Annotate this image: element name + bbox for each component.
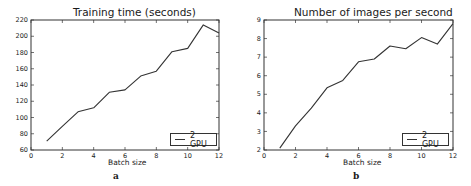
x-tick-label: 2 (60, 152, 64, 160)
chart-title-a: Training time (seconds) (73, 6, 196, 18)
y-tick-label: 100 (16, 114, 28, 122)
series-line-2gpu (47, 25, 219, 141)
y-tick-label: 7 (257, 53, 261, 61)
legend-line-swatch (175, 139, 185, 140)
chart-panel-a: 0246810126080100120140160180200220 Train… (0, 0, 235, 186)
legend-a: 2 GPU (170, 133, 217, 146)
y-tick-label: 2 (257, 146, 261, 154)
x-tick-label: 12 (449, 152, 457, 160)
x-axis-label-b: Batch size (343, 158, 382, 167)
chart-title-b: Number of images per second (294, 6, 453, 18)
y-tick-label: 180 (16, 49, 28, 57)
y-tick-label: 120 (16, 97, 28, 105)
y-tick-label: 6 (257, 72, 261, 80)
y-tick-label: 8 (257, 35, 261, 43)
y-tick-label: 80 (20, 130, 28, 138)
y-tick-label: 160 (16, 65, 28, 73)
y-tick-label: 5 (257, 90, 261, 98)
x-tick-label: 10 (184, 152, 192, 160)
x-axis-label-a: Batch size (108, 158, 147, 167)
y-tick-label: 4 (257, 109, 261, 117)
y-tick-label: 200 (16, 32, 28, 40)
y-tick-label: 60 (20, 146, 28, 154)
x-tick-label: 2 (293, 152, 297, 160)
x-tick-label: 8 (388, 152, 392, 160)
series-line-2gpu (280, 24, 453, 148)
figure-caption-b: b (353, 171, 359, 181)
y-tick-label: 140 (16, 81, 28, 89)
x-tick-label: 10 (417, 152, 425, 160)
x-tick-label: 0 (29, 152, 33, 160)
y-tick-label: 3 (257, 128, 261, 136)
legend-b: 2 GPU (402, 133, 449, 146)
x-tick-label: 0 (262, 152, 266, 160)
x-tick-label: 12 (215, 152, 223, 160)
y-tick-label: 9 (257, 16, 261, 24)
legend-label: 2 GPU (422, 131, 444, 149)
x-tick-label: 4 (325, 152, 329, 160)
x-tick-label: 4 (92, 152, 96, 160)
legend-label: 2 GPU (190, 131, 212, 149)
figure-caption-a: a (113, 171, 119, 181)
legend-line-swatch (407, 139, 417, 140)
x-tick-label: 8 (154, 152, 158, 160)
chart-panel-b: 02468101223456789 Number of images per s… (236, 0, 471, 186)
y-tick-label: 220 (16, 16, 28, 24)
